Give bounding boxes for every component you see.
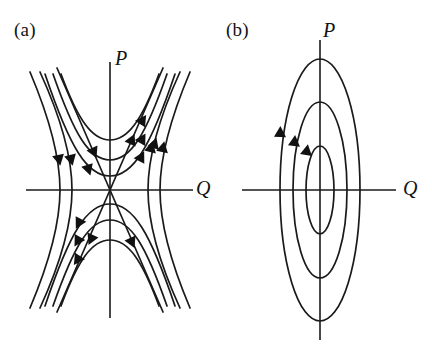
panel-a-saddle: (a) P Q xyxy=(0,0,216,345)
panel-b-plot xyxy=(216,0,432,345)
panel-a-arrow-left-1 xyxy=(64,154,78,168)
panel-b-center: (b) P Q xyxy=(216,0,432,345)
panel-a-plot xyxy=(0,0,216,345)
panel-a-arrow-left-2 xyxy=(52,154,66,167)
panel-a-arrow-right-2 xyxy=(156,140,170,153)
phase-portrait-figure: (a) P Q xyxy=(0,0,432,345)
